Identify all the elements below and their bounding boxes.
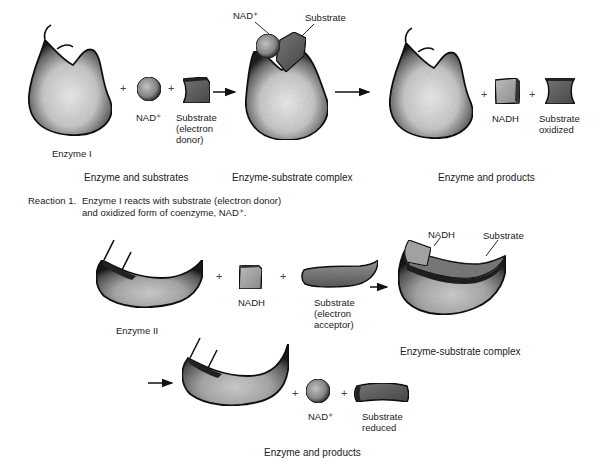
diagram-canvas: Enzyme I + NAD⁺ + Substrate (electron do… bbox=[0, 0, 597, 458]
substrate-reduced-shape bbox=[353, 380, 411, 406]
caption-enzyme-and-products-1: Enzyme and products bbox=[438, 172, 535, 183]
reaction-1-description: Reaction 1. Enzyme I reacts with substra… bbox=[28, 195, 428, 223]
plus-sign: + bbox=[216, 270, 222, 282]
substrate-oxidized-label: Substrate oxidized bbox=[539, 113, 580, 135]
nad-plus-label: NAD⁺ bbox=[308, 411, 333, 422]
reaction-arrow bbox=[370, 283, 394, 291]
enzyme-2-products-shape bbox=[178, 336, 293, 408]
nad-plus-shape bbox=[305, 378, 331, 404]
substrate-donor-label: Substrate (electron donor) bbox=[176, 112, 217, 145]
leader-line bbox=[255, 22, 275, 38]
caption-enzyme-substrate-complex-2: Enzyme-substrate complex bbox=[400, 346, 521, 357]
reaction-arrow bbox=[148, 379, 178, 387]
complex-1-nad-label: NAD⁺ bbox=[233, 10, 258, 21]
nadh-label: NADH bbox=[238, 297, 265, 308]
nadh-shape bbox=[492, 76, 522, 106]
leader-line bbox=[300, 24, 320, 40]
enzyme-1-products-shape bbox=[386, 28, 476, 143]
substrate-donor-shape bbox=[180, 75, 212, 105]
nadh-label: NADH bbox=[492, 113, 519, 124]
enzyme-2-shape bbox=[92, 238, 207, 310]
nadh-shape bbox=[236, 263, 264, 291]
caption-enzyme-and-substrates: Enzyme and substrates bbox=[84, 172, 189, 183]
plus-sign: + bbox=[168, 82, 174, 94]
leader-line bbox=[482, 240, 502, 260]
reaction-arrow bbox=[335, 88, 375, 96]
reaction-arrow bbox=[213, 88, 243, 96]
caption-enzyme-substrate-complex-1: Enzyme-substrate complex bbox=[232, 172, 353, 183]
enzyme-2-label: Enzyme II bbox=[116, 325, 158, 336]
substrate-acceptor-label: Substrate (electron acceptor) bbox=[314, 297, 355, 330]
nad-plus-label: NAD⁺ bbox=[136, 112, 161, 123]
reaction-1-text: Enzyme I reacts with substrate (electron… bbox=[82, 195, 422, 219]
enzyme-1-label: Enzyme I bbox=[52, 148, 92, 159]
plus-sign: + bbox=[481, 88, 487, 100]
substrate-oxidized-shape bbox=[543, 75, 577, 107]
plus-sign: + bbox=[120, 82, 126, 94]
nad-plus-shape bbox=[136, 76, 162, 102]
reaction-1-number: Reaction 1. bbox=[28, 195, 76, 207]
plus-sign: + bbox=[280, 270, 286, 282]
substrate-acceptor-shape bbox=[300, 260, 380, 290]
caption-enzyme-and-products-2: Enzyme and products bbox=[264, 447, 361, 458]
plus-sign: + bbox=[341, 387, 347, 399]
complex-1-substrate-label: Substrate bbox=[305, 12, 346, 23]
enzyme-1-shape bbox=[25, 25, 115, 140]
leader-line bbox=[432, 238, 442, 248]
plus-sign: + bbox=[529, 88, 535, 100]
substrate-reduced-label: Substrate reduced bbox=[362, 411, 403, 433]
plus-sign: + bbox=[292, 387, 298, 399]
